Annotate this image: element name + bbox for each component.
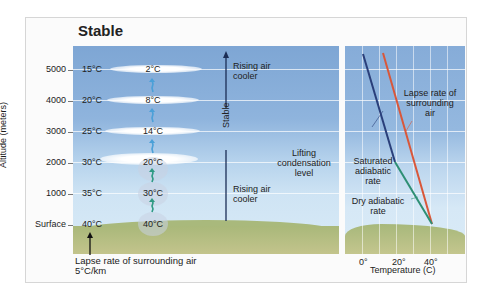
label-line: rate [347,206,409,216]
saturated-adiabatic-label: Saturated adiabatic rate [346,156,400,186]
label-line: Dry adiabatic [347,196,409,206]
dry-adiabatic-label: Dry adiabatic rate [347,196,409,216]
label-line: rate [346,176,400,186]
label-line: air [398,108,462,118]
label-line: surrounding [398,98,462,108]
label-line: adiabatic [346,166,400,176]
graph-lines [0,0,493,292]
surrounding-lapse-label: Lapse rate of surrounding air [398,88,462,118]
label-line: Saturated [346,156,400,166]
label-line: Lapse rate of [398,88,462,98]
x-tick: 0° [359,257,368,267]
x-axis-title: Temperature (C) [370,265,436,275]
